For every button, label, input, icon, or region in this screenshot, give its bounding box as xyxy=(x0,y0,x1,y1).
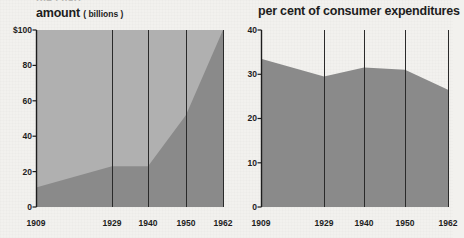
y-tick-percent-40: 40 xyxy=(232,25,257,35)
y-tick-amount-40: 40 xyxy=(0,131,32,141)
x-tick-amount-1940: 1940 xyxy=(128,218,168,228)
chart-panel-percent: per cent of consumer expenditures 40 30 … xyxy=(232,0,453,238)
y-tick-amount-0: 0 xyxy=(0,202,32,212)
y-tick-amount-20: 20 xyxy=(0,167,32,177)
y-tick-amount-80: 80 xyxy=(0,60,32,70)
y-tick-percent-0: 0 xyxy=(232,202,257,212)
chart-canvas-amount xyxy=(0,0,232,238)
y-tick-percent-20: 20 xyxy=(232,113,257,123)
x-tick-percent-1909: 1909 xyxy=(241,218,281,228)
chart-panel-amount: the chart amount ( billions ) $100 80 60… xyxy=(0,0,232,238)
chart-canvas-percent xyxy=(232,0,453,238)
area-series-percent xyxy=(261,59,448,207)
x-tick-amount-1929: 1929 xyxy=(92,218,132,228)
x-tick-percent-1940: 1940 xyxy=(344,218,384,228)
x-tick-amount-1950: 1950 xyxy=(166,218,206,228)
y-tick-amount-60: 60 xyxy=(0,96,32,106)
y-tick-percent-10: 10 xyxy=(232,158,257,168)
y-tick-percent-30: 30 xyxy=(232,69,257,79)
x-tick-percent-1950: 1950 xyxy=(385,218,425,228)
x-tick-amount-1909: 1909 xyxy=(16,218,56,228)
x-tick-percent-1962: 1962 xyxy=(428,218,464,228)
y-tick-amount-100: $100 xyxy=(0,25,32,35)
x-tick-percent-1929: 1929 xyxy=(304,218,344,228)
